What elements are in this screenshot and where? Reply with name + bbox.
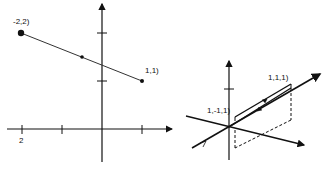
- point-a-label: -2,2): [13, 17, 30, 26]
- right-plot: 1,1,1) 1,-1,1): [186, 61, 320, 160]
- point-a-dot: [18, 30, 24, 36]
- axis-arrowhead-neg: [200, 141, 206, 147]
- figure: -2,2) 1,1) 2 1,1,1) 1,-1,1): [0, 0, 325, 175]
- vector-origin-to-b: [229, 88, 291, 127]
- x-tick-label: 2: [19, 136, 24, 145]
- point-b-label: 1,1): [145, 66, 159, 75]
- point-b-dot: [140, 79, 144, 83]
- point-b-label-3d: 1,1,1): [268, 73, 289, 82]
- left-plot: -2,2) 1,1) 2: [7, 4, 172, 162]
- midpoint-dot: [80, 55, 84, 59]
- point-a-label-3d: 1,-1,1): [207, 106, 230, 115]
